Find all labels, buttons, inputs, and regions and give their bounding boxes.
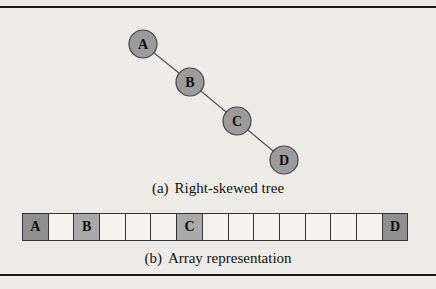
array-cell-7 <box>203 214 229 240</box>
tree-caption: (a)Right-skewed tree <box>0 180 436 197</box>
array-cell-14: D <box>383 214 409 240</box>
array-cell-9 <box>254 214 280 240</box>
node-label: A <box>138 37 149 52</box>
tree-node-d: D <box>270 146 298 174</box>
array-cell-2: B <box>74 214 100 240</box>
caption-text: Array representation <box>168 250 292 266</box>
array-cell-1 <box>49 214 75 240</box>
array-representation: A B C D <box>22 213 408 241</box>
array-cell-6: C <box>177 214 203 240</box>
bottom-rule <box>0 274 436 276</box>
array-cell-0: A <box>23 214 49 240</box>
node-label: C <box>232 114 242 129</box>
caption-text: Right-skewed tree <box>175 180 285 196</box>
tree-edges <box>143 44 284 160</box>
tree-node-c: C <box>223 107 251 135</box>
array-cell-5 <box>151 214 177 240</box>
array-cell-11 <box>306 214 332 240</box>
tree-node-a: A <box>129 30 157 58</box>
node-label: D <box>279 153 289 168</box>
node-label: B <box>185 75 194 90</box>
array-cell-12 <box>331 214 357 240</box>
caption-tag: (a) <box>152 180 169 196</box>
array-cell-3 <box>100 214 126 240</box>
array-cell-10 <box>280 214 306 240</box>
right-skewed-tree: A B C D <box>0 0 436 200</box>
array-cell-8 <box>229 214 255 240</box>
tree-node-b: B <box>176 68 204 96</box>
caption-tag: (b) <box>144 250 162 266</box>
array-caption: (b)Array representation <box>0 250 436 267</box>
array-cell-4 <box>126 214 152 240</box>
array-cell-13 <box>357 214 383 240</box>
